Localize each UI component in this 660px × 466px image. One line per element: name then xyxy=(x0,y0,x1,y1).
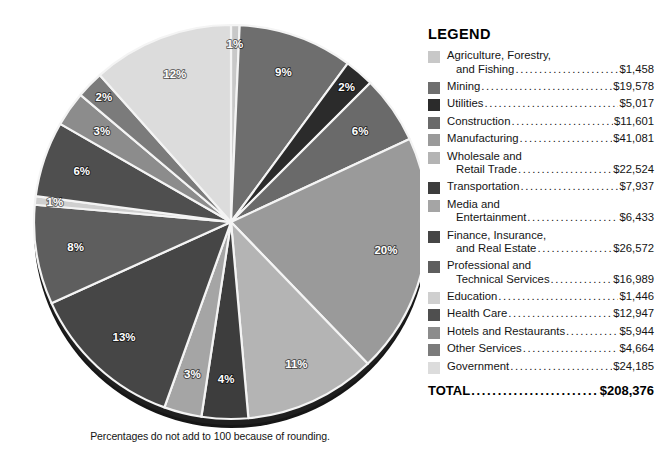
legend-item-label: Health Care xyxy=(447,307,507,321)
legend-color-swatch xyxy=(428,261,440,273)
pie-slice-percent-label: 1% xyxy=(227,38,244,50)
legend-item-body: Mining..................................… xyxy=(447,80,654,94)
legend-dot-leader: ........................................… xyxy=(551,273,613,287)
legend-item[interactable]: Construction............................… xyxy=(428,115,654,129)
legend-item[interactable]: Wholesale andRetail Trade...............… xyxy=(428,150,654,177)
legend-item-body: Transportation..........................… xyxy=(447,180,654,194)
legend-item-label: Mining xyxy=(447,80,480,94)
legend-color-swatch xyxy=(428,231,440,243)
legend-dot-leader: ........................................… xyxy=(527,211,618,225)
legend-item-value: $16,989 xyxy=(613,273,654,287)
legend: LEGEND Agriculture, Forestry,and Fishing… xyxy=(428,26,654,398)
legend-dot-leader: ........................................… xyxy=(518,163,612,177)
pie-slice-percent-label: 12% xyxy=(163,68,186,80)
legend-item-label: Hotels and Restaurants xyxy=(447,325,565,339)
pie-slice-percent-label: 8% xyxy=(67,241,84,253)
legend-item[interactable]: Other Services..........................… xyxy=(428,342,654,356)
pie-slice-percent-label: 3% xyxy=(94,125,111,137)
legend-item-label-line2: and Fishing.............................… xyxy=(447,63,654,77)
legend-item-line: Government..............................… xyxy=(447,360,654,374)
legend-item-line: Hotels and Restaurants..................… xyxy=(447,325,654,339)
pie-slice-percent-label: 3% xyxy=(184,368,201,380)
legend-dot-leader: ........................................… xyxy=(523,342,619,356)
legend-item[interactable]: Government..............................… xyxy=(428,360,654,374)
legend-item-label: Education xyxy=(447,290,497,304)
legend-item-body: Construction............................… xyxy=(447,115,654,129)
legend-item-label-line1: Wholesale and xyxy=(447,150,654,164)
legend-item-body: Finance, Insurance,and Real Estate......… xyxy=(447,229,654,256)
chart-footnote: Percentages do not add to 100 because of… xyxy=(0,430,420,442)
legend-item[interactable]: Utilities...............................… xyxy=(428,97,654,111)
legend-item-line: Education...............................… xyxy=(447,290,654,304)
legend-dot-leader: ........................................… xyxy=(510,360,612,374)
legend-color-swatch xyxy=(428,309,440,321)
legend-item-label: Manufacturing xyxy=(447,132,519,146)
legend-dot-leader: ........................................… xyxy=(508,307,612,321)
legend-dot-leader: ........................................… xyxy=(511,115,613,129)
legend-item-body: Wholesale andRetail Trade...............… xyxy=(447,150,654,177)
legend-item[interactable]: Education...............................… xyxy=(428,290,654,304)
legend-color-swatch xyxy=(428,152,440,164)
legend-item-label: Government xyxy=(447,360,509,374)
legend-color-swatch xyxy=(428,117,440,129)
legend-color-swatch xyxy=(428,200,440,212)
legend-item-line: Mining..................................… xyxy=(447,80,654,94)
legend-item-line: Transportation..........................… xyxy=(447,180,654,194)
legend-item[interactable]: Mining..................................… xyxy=(428,80,654,94)
legend-item-value: $4,664 xyxy=(619,342,654,356)
legend-item-value: $5,944 xyxy=(619,325,654,339)
pie-slice-percent-label: 9% xyxy=(275,66,292,78)
legend-item[interactable]: Finance, Insurance,and Real Estate......… xyxy=(428,229,654,256)
legend-item-body: Utilities...............................… xyxy=(447,97,654,111)
legend-total-dots: ........................................… xyxy=(471,383,599,398)
legend-item-body: Agriculture, Forestry,and Fishing.......… xyxy=(447,49,654,76)
legend-item-value: $5,017 xyxy=(619,97,654,111)
legend-total-row: TOTAL ..................................… xyxy=(428,383,654,398)
legend-item-value: $1,446 xyxy=(619,290,654,304)
pie-slice-percent-label: 2% xyxy=(338,81,355,93)
legend-item[interactable]: Transportation..........................… xyxy=(428,180,654,194)
legend-item-value: $1,458 xyxy=(619,63,654,77)
pie-slice-percent-label: 20% xyxy=(374,244,397,256)
legend-dot-leader: ........................................… xyxy=(520,180,618,194)
legend-color-swatch xyxy=(428,292,440,304)
legend-item-label-line2: Technical Services......................… xyxy=(447,273,654,287)
legend-item-line: Manufacturing...........................… xyxy=(447,132,654,146)
legend-item-label: Entertainment xyxy=(456,211,526,225)
legend-item-line: Other Services..........................… xyxy=(447,342,654,356)
legend-item-label-line1: Finance, Insurance, xyxy=(447,229,654,243)
pie-slice-percent-label: 6% xyxy=(352,125,369,137)
legend-color-swatch xyxy=(428,134,440,146)
legend-item-line: Utilities...............................… xyxy=(447,97,654,111)
legend-item-body: Government..............................… xyxy=(447,360,654,374)
legend-item[interactable]: Agriculture, Forestry,and Fishing.......… xyxy=(428,49,654,76)
legend-item-value: $22,524 xyxy=(613,163,654,177)
legend-item-label: Retail Trade xyxy=(456,163,517,177)
legend-item-value: $41,081 xyxy=(613,132,654,146)
legend-color-swatch xyxy=(428,344,440,356)
legend-item-label-line2: and Real Estate.........................… xyxy=(447,242,654,256)
legend-dot-leader: ........................................… xyxy=(498,290,618,304)
legend-item-body: Media andEntertainment..................… xyxy=(447,198,654,225)
pie-slice-percent-label: 4% xyxy=(218,373,235,385)
pie-slices xyxy=(34,25,420,419)
legend-dot-leader: ........................................… xyxy=(537,242,612,256)
legend-item-label: Utilities xyxy=(447,97,483,111)
legend-item-body: Health Care.............................… xyxy=(447,307,654,321)
legend-item-body: Manufacturing...........................… xyxy=(447,132,654,146)
legend-item[interactable]: Hotels and Restaurants..................… xyxy=(428,325,654,339)
legend-item[interactable]: Professional andTechnical Services......… xyxy=(428,259,654,286)
legend-item[interactable]: Manufacturing...........................… xyxy=(428,132,654,146)
legend-item-label-line1: Media and xyxy=(447,198,654,212)
legend-item-label: Other Services xyxy=(447,342,522,356)
legend-item-label: Technical Services xyxy=(456,273,550,287)
legend-item-value: $19,578 xyxy=(613,80,654,94)
pie-chart-panel: 1%9%2%6%20%11%4%3%13%8%1%6%3%2%12% Perce… xyxy=(0,0,420,466)
legend-color-swatch xyxy=(428,182,440,194)
legend-item[interactable]: Health Care.............................… xyxy=(428,307,654,321)
legend-item[interactable]: Media andEntertainment..................… xyxy=(428,198,654,225)
pie-slice-percent-label: 2% xyxy=(96,91,113,103)
legend-item-label-line1: Agriculture, Forestry, xyxy=(447,49,654,63)
pie-slice-percent-label: 1% xyxy=(46,196,63,208)
legend-item-label-line1: Professional and xyxy=(447,259,654,273)
